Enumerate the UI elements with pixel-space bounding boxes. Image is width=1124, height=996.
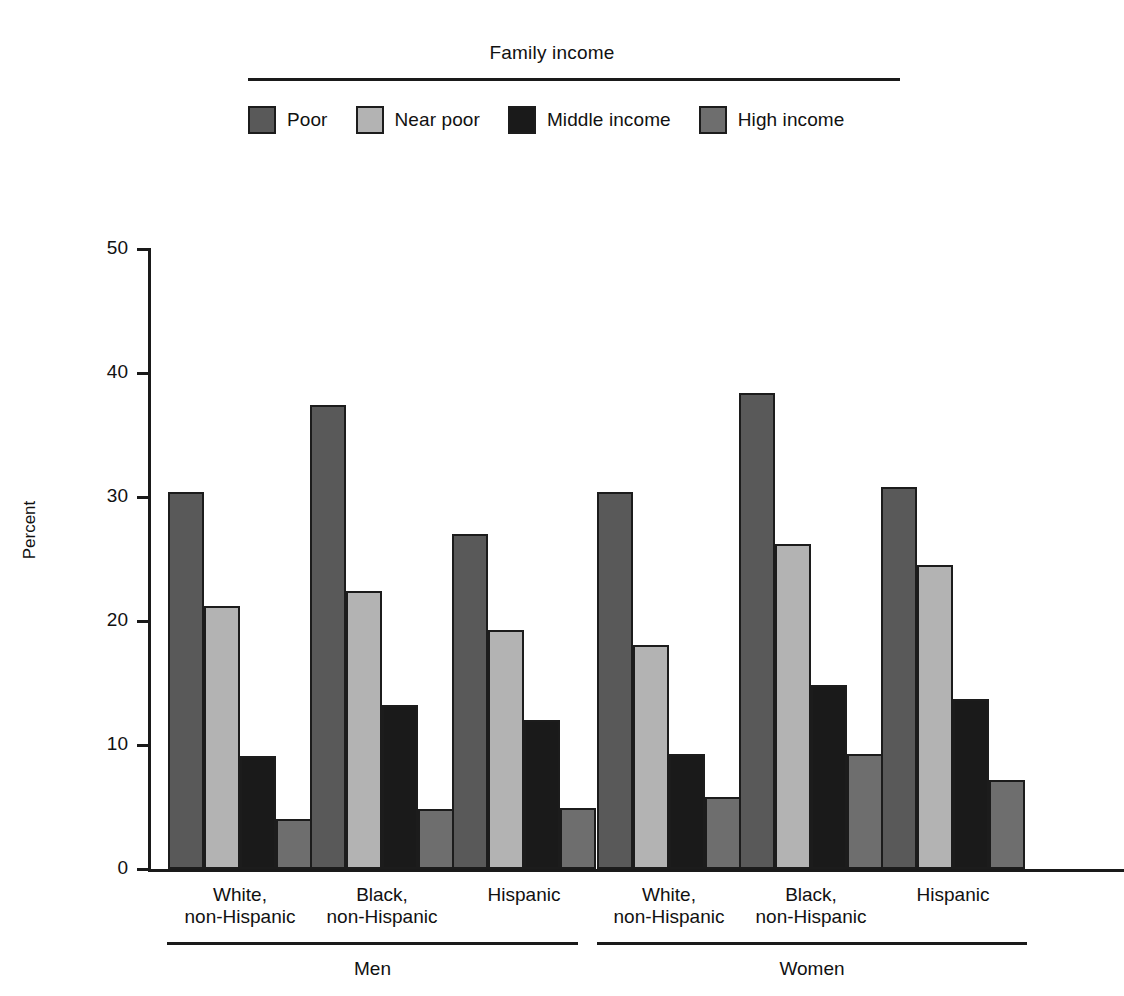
bar: [452, 534, 488, 869]
bar: [310, 405, 346, 869]
bar: [488, 630, 524, 869]
group-label: Women: [597, 958, 1027, 980]
bar: [739, 393, 775, 869]
bar: [204, 606, 240, 869]
bar: [953, 699, 989, 869]
group-divider: [597, 942, 1027, 945]
bar: [633, 645, 669, 869]
bar: [705, 797, 741, 869]
bar: [418, 809, 454, 869]
bar: [346, 591, 382, 869]
bar: [775, 544, 811, 869]
bar: [276, 819, 312, 869]
bar: [524, 720, 560, 869]
bar: [382, 705, 418, 869]
bar: [917, 565, 953, 869]
bar: [881, 487, 917, 869]
bar: [168, 492, 204, 869]
bar: [847, 754, 883, 869]
group-label: Men: [167, 958, 578, 980]
group-divider: [167, 942, 578, 945]
bar: [560, 808, 596, 869]
bar: [240, 756, 276, 869]
bar: [989, 780, 1025, 869]
bar: [597, 492, 633, 869]
bar: [811, 685, 847, 869]
x-category-label: Hispanic: [858, 884, 1048, 906]
bar: [669, 754, 705, 869]
